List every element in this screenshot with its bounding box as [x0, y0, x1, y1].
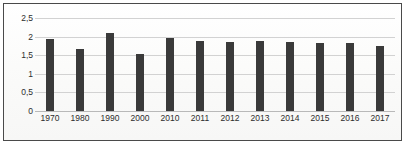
bar: [286, 42, 294, 111]
y-axis: 00,511,522,5: [4, 18, 33, 111]
bar-slot: [125, 18, 155, 111]
bar-slot: [65, 18, 95, 111]
x-axis-tick-label: 2012: [221, 114, 240, 123]
y-axis-tick-label: 2: [7, 32, 33, 41]
bar: [316, 43, 324, 111]
gridline: [35, 111, 395, 112]
y-axis-tick-label: 1: [7, 70, 33, 79]
bar: [256, 41, 264, 111]
bar: [166, 38, 174, 111]
bar-slot: [365, 18, 395, 111]
x-axis-tick-label: 2013: [251, 114, 270, 123]
x-axis-tick-label: 1970: [41, 114, 60, 123]
x-axis-tick-label: 2000: [131, 114, 150, 123]
y-axis-tick-label: 1,5: [7, 51, 33, 60]
bar: [46, 39, 54, 111]
x-axis-tick-label: 2017: [371, 114, 390, 123]
bar: [226, 42, 234, 111]
x-axis-tick-label: 2016: [341, 114, 360, 123]
bar-series: [35, 18, 395, 111]
bar: [76, 49, 84, 111]
y-axis-tick-label: 0: [7, 107, 33, 116]
bar: [136, 54, 144, 111]
bar-slot: [35, 18, 65, 111]
plot-area: [35, 18, 395, 111]
x-axis-tick-label: 1980: [71, 114, 90, 123]
bar-slot: [335, 18, 365, 111]
x-axis-tick-label: 2011: [191, 114, 209, 123]
x-axis-tick-label: 2014: [281, 114, 300, 123]
bar-slot: [245, 18, 275, 111]
chart-frame: 00,511,522,5 197019801990200020102011201…: [3, 3, 402, 141]
bar-slot: [185, 18, 215, 111]
bar-slot: [215, 18, 245, 111]
bar-slot: [155, 18, 185, 111]
bar: [376, 46, 384, 111]
bar-slot: [275, 18, 305, 111]
x-axis: 1970198019902000201020112012201320142015…: [35, 114, 395, 128]
y-axis-tick-label: 2,5: [7, 14, 33, 23]
bar-slot: [95, 18, 125, 111]
bar: [106, 33, 114, 111]
x-axis-tick-label: 2015: [311, 114, 330, 123]
bar-slot: [305, 18, 335, 111]
y-axis-tick-label: 0,5: [7, 88, 33, 97]
x-axis-tick-label: 2010: [161, 114, 180, 123]
x-axis-tick-label: 1990: [101, 114, 120, 123]
bar: [196, 41, 204, 111]
bar: [346, 43, 354, 111]
